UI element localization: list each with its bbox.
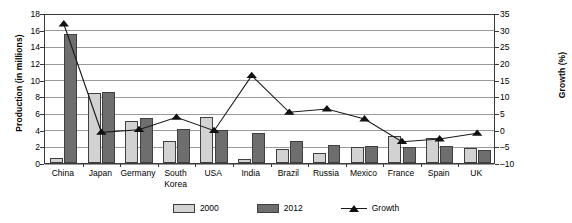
y-tickmark-left (40, 31, 44, 32)
x-axis-label: USA (194, 168, 232, 179)
x-axis-label: China (44, 168, 82, 179)
y-axis-right-ticks: –10–505101520253035 (500, 14, 524, 164)
legend-item-growth: Growth (341, 203, 399, 213)
y-tick-right: 25 (500, 43, 522, 52)
y-tickmark-left (40, 164, 44, 165)
plot-area: China growth: 32%Japan growth: -0.5%Germ… (44, 14, 495, 164)
y-tickmark-left (40, 131, 44, 132)
x-axis-label: France (382, 168, 420, 179)
y-tickmark-right (495, 31, 499, 32)
y-tickmark-left (40, 81, 44, 82)
legend-swatch-2012 (257, 204, 279, 213)
legend-item-2000: 2000 (173, 203, 219, 213)
growth-marker-triangle-icon: India growth: 16.5% (247, 72, 257, 78)
y-tickmark-left (40, 47, 44, 48)
legend-label-growth: Growth (372, 203, 399, 213)
y-tickmark-right (495, 81, 499, 82)
y-axis-left-ticks: 024681012141618 (22, 14, 40, 164)
y-tick-right: 30 (500, 27, 522, 36)
legend-label-2000: 2000 (200, 203, 219, 213)
growth-marker-triangle-icon: UK growth: -0.8% (472, 129, 482, 135)
legend-label-2012: 2012 (284, 203, 303, 213)
x-axis-label: Russia (307, 168, 345, 179)
x-axis-labels: ChinaJapanGermanySouth KoreaUSAIndiaBraz… (44, 168, 495, 196)
y-tickmark-right (495, 97, 499, 98)
y-tick-left: 0 (24, 160, 40, 169)
y-tick-left: 12 (24, 60, 40, 69)
y-tick-right: 5 (500, 110, 522, 119)
growth-marker-triangle-icon: South Korea growth: 4% (171, 113, 181, 119)
y-tickmark-left (40, 114, 44, 115)
x-axis-label: Japan (82, 168, 120, 179)
y-tick-left: 14 (24, 43, 40, 52)
y-tickmark-left (40, 147, 44, 148)
y-tick-right: 35 (500, 10, 522, 19)
y-tickmark-left (40, 97, 44, 98)
y-tick-left: 10 (24, 77, 40, 86)
chart-legend: 2000 2012 Growth (0, 198, 572, 218)
y-tick-left: 4 (24, 127, 40, 136)
y-tick-left: 2 (24, 143, 40, 152)
y-tickmark-left (40, 64, 44, 65)
legend-marker-growth-triangle-icon (341, 204, 367, 213)
y-tick-right: –5 (500, 143, 522, 152)
y-tickmark-right (495, 14, 499, 15)
y-tickmark-left (40, 14, 44, 15)
legend-swatch-2000 (173, 204, 195, 213)
x-axis-label: UK (457, 168, 495, 179)
y-tickmark-right (495, 64, 499, 65)
y-tick-right: 10 (500, 93, 522, 102)
y-tick-left: 16 (24, 27, 40, 36)
x-axis-label: Brazil (270, 168, 308, 179)
legend-item-2012: 2012 (257, 203, 303, 213)
y-tick-right: –10 (500, 160, 522, 169)
growth-line-series: China growth: 32%Japan growth: -0.5%Germ… (45, 14, 496, 164)
y-tickmark-right (495, 47, 499, 48)
growth-line (64, 24, 477, 142)
y-tick-left: 8 (24, 93, 40, 102)
chart-container: Production (in millions) Growth (%) 0246… (0, 0, 572, 223)
y-axis-right-title: Growth (%) (557, 30, 567, 120)
growth-marker-triangle-icon: Russia growth: 6.5% (322, 105, 332, 111)
y-tick-right: 15 (500, 77, 522, 86)
y-tick-left: 18 (24, 10, 40, 19)
x-axis-label: Germany (119, 168, 157, 179)
x-axis-label: South Korea (157, 168, 195, 189)
growth-marker-triangle-icon: China growth: 32% (59, 20, 69, 26)
y-tickmark-right (495, 147, 499, 148)
y-tick-right: 20 (500, 60, 522, 69)
x-axis-label: Spain (420, 168, 458, 179)
x-axis-label: India (232, 168, 270, 179)
y-tickmark-right (495, 131, 499, 132)
y-tick-right: 0 (500, 127, 522, 136)
y-tick-left: 6 (24, 110, 40, 119)
y-tickmark-right (495, 164, 499, 165)
x-axis-label: Mexico (345, 168, 383, 179)
y-tickmark-right (495, 114, 499, 115)
